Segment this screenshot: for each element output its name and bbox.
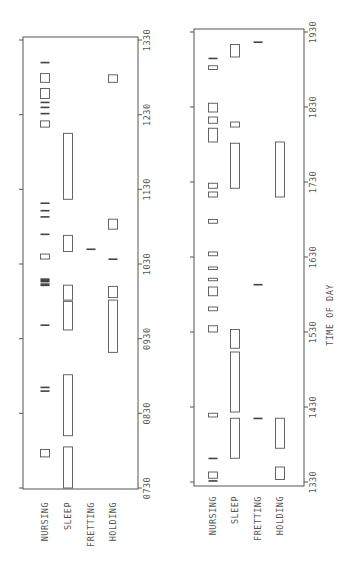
event-mark-nursing (41, 278, 50, 280)
panel-morning: 0730083009301030113012301330 NURSINGSLEE… (19, 29, 152, 547)
activity-timeline-chart: 0730083009301030113012301330 NURSINGSLEE… (0, 0, 351, 585)
event-mark-nursing (41, 113, 50, 115)
event-bar-nursing (41, 74, 50, 83)
event-bar-sleep (64, 235, 73, 251)
event-bar-holding (109, 286, 118, 297)
event-mark-fretting (254, 418, 263, 420)
event-mark-holding (109, 258, 118, 260)
event-bar-nursing (209, 252, 218, 256)
category-label-holding: HOLDING (108, 502, 118, 541)
event-bar-nursing (41, 254, 50, 259)
event-bar-sleep (64, 301, 73, 330)
event-bar-nursing (41, 89, 50, 99)
event-mark-nursing (41, 107, 50, 109)
event-bar-sleep (64, 375, 73, 436)
category-label-holding: HOLDING (275, 496, 285, 535)
event-bar-nursing (209, 278, 218, 281)
event-mark-nursing (41, 62, 50, 64)
event-bar-holding (109, 75, 118, 82)
tick-label: 1730 (308, 171, 318, 193)
event-bar-sleep (64, 447, 73, 488)
tick-label: 0930 (142, 327, 152, 349)
event-bar-nursing (41, 449, 50, 456)
category-label-nursing: NURSING (208, 496, 218, 535)
event-bar-holding (109, 219, 118, 229)
event-mark-nursing (41, 390, 50, 392)
tick-label: 1330 (142, 29, 152, 51)
event-mark-nursing (41, 283, 50, 285)
event-bar-nursing (209, 66, 218, 70)
category-label-fretting: FRETTING (86, 502, 96, 547)
event-mark-nursing (209, 58, 218, 60)
event-mark-nursing (41, 202, 50, 204)
event-mark-nursing (41, 234, 50, 236)
panel-afternoon: 1330143015301630173018301930 NURSINGSLEE… (190, 21, 318, 541)
tick-label: 1430 (308, 396, 318, 418)
event-bar-sleep (231, 352, 240, 412)
event-bar-nursing (209, 267, 218, 270)
event-mark-nursing (41, 102, 50, 104)
event-bar-sleep (64, 285, 73, 300)
event-bar-nursing (209, 307, 218, 311)
event-mark-nursing (41, 210, 50, 212)
category-label-sleep: SLEEP (63, 502, 73, 530)
event-mark-fretting (87, 248, 96, 250)
category-label-sleep: SLEEP (230, 496, 240, 524)
tick-label: 1230 (142, 103, 152, 125)
event-bar-sleep (231, 122, 240, 127)
event-bar-sleep (231, 45, 240, 58)
event-bar-nursing (209, 326, 218, 332)
tick-label: 1130 (142, 178, 152, 200)
event-bar-holding (276, 418, 285, 448)
event-mark-nursing (41, 324, 50, 326)
event-bar-nursing (209, 413, 218, 417)
event-bar-nursing (209, 183, 218, 188)
event-mark-fretting (254, 284, 263, 286)
category-label-fretting: FRETTING (253, 496, 263, 541)
event-bar-sleep (231, 418, 240, 458)
event-mark-nursing (209, 458, 218, 460)
event-bar-holding (276, 142, 285, 197)
category-label-nursing: NURSING (40, 502, 50, 541)
event-bar-nursing (209, 220, 218, 224)
tick-label: 1330 (308, 471, 318, 493)
event-bar-nursing (209, 128, 218, 142)
event-bar-nursing (209, 287, 218, 296)
event-bar-holding (109, 300, 118, 352)
event-bar-nursing (209, 472, 218, 478)
event-bar-nursing (209, 192, 218, 197)
tick-label: 0830 (142, 402, 152, 424)
event-bar-sleep (64, 133, 73, 199)
event-mark-nursing (41, 216, 50, 218)
event-bar-sleep (231, 143, 240, 188)
tick-label: 1930 (308, 21, 318, 43)
tick-label: 1630 (308, 246, 318, 268)
event-bar-sleep (231, 330, 240, 349)
tick-label: 1830 (308, 96, 318, 118)
event-mark-fretting (254, 41, 263, 43)
tick-label: 1030 (142, 253, 152, 275)
tick-label: 0730 (142, 477, 152, 499)
event-bar-nursing (209, 103, 218, 112)
tick-label: 1530 (308, 321, 318, 343)
event-bar-nursing (41, 121, 50, 127)
event-mark-nursing (41, 387, 50, 389)
event-bar-nursing (209, 117, 218, 123)
panel-frame (194, 29, 304, 486)
event-mark-nursing (209, 480, 218, 482)
event-bar-holding (276, 467, 285, 480)
x-axis-label: TIME OF DAY (325, 284, 335, 346)
panel-frame (23, 37, 138, 489)
